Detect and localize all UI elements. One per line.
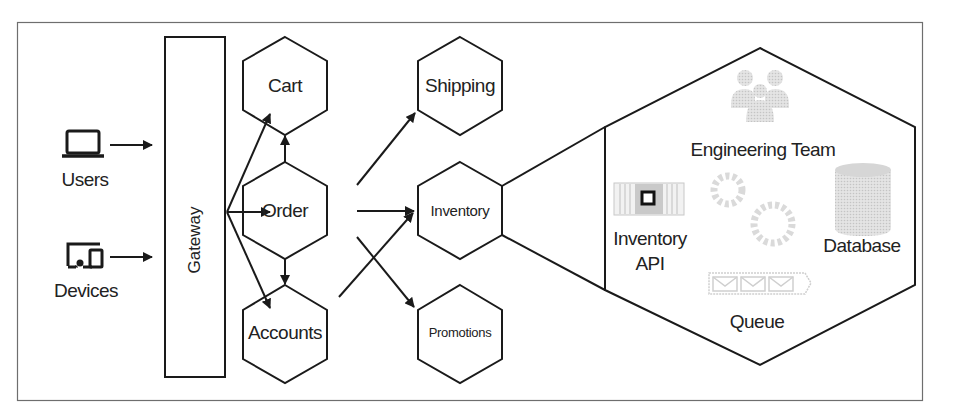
detail-label-engineering-team: Engineering Team [691, 140, 836, 160]
devices-icon [68, 244, 102, 267]
detail-label-queue: Queue [730, 312, 785, 332]
service-label-shipping: Shipping [425, 76, 495, 96]
client-label-users: Users [61, 170, 108, 190]
detail-label-inventory-api-line1: Inventory [613, 229, 687, 249]
detail-label-database: Database [823, 236, 900, 256]
service-label-promotions: Promotions [429, 326, 492, 340]
client-label-devices: Devices [54, 281, 118, 301]
detail-label-inventory-api-line2: API [635, 254, 664, 274]
service-label-cart: Cart [268, 76, 302, 96]
zoom-connector-bottom [502, 235, 605, 290]
edge-order-shipping [357, 113, 415, 185]
api-icon [614, 183, 684, 215]
edge-accounts-inventory [339, 213, 413, 297]
gateway-label: Gateway [186, 206, 204, 273]
laptop-icon [62, 131, 104, 156]
edge-order-promotions [357, 237, 414, 307]
service-label-inventory: Inventory [431, 203, 490, 219]
service-label-order: Order [262, 201, 308, 221]
service-label-accounts: Accounts [248, 323, 322, 343]
database-icon [835, 163, 891, 236]
zoom-connector-top [502, 127, 605, 186]
